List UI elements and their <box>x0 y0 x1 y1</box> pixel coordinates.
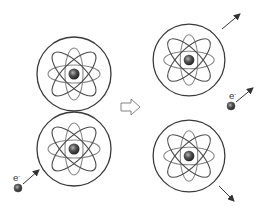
atom-bottom-right-motion-arrow-icon <box>219 186 234 201</box>
atom-bottom-right <box>153 120 225 192</box>
atom-bottom-left <box>37 112 111 186</box>
outgoing-electron-label: e- <box>229 90 236 101</box>
outgoing-electron-arrow-icon <box>236 88 253 102</box>
diagram-canvas: e- e- <box>0 0 265 210</box>
atom-top-left <box>37 37 111 111</box>
atom-top-right <box>153 24 225 96</box>
incoming-electron-arrow-icon <box>23 170 39 184</box>
incoming-electron: e- <box>13 170 39 192</box>
atom-top-right-motion-arrow-icon <box>222 14 240 29</box>
outgoing-electron: e- <box>227 88 253 110</box>
hollow-right-arrow-icon <box>121 99 140 115</box>
incoming-electron-label: e- <box>13 172 20 183</box>
